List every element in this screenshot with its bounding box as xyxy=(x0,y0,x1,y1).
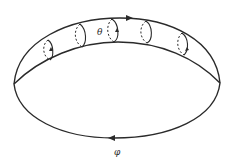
phi-label: φ xyxy=(114,147,121,157)
top-arrow-icon xyxy=(126,15,133,21)
theta-label: θ xyxy=(97,27,103,37)
torus-inner-tube-edge xyxy=(14,42,220,84)
torus-bottom-edge xyxy=(14,83,220,138)
poloidal-circle-5 xyxy=(178,33,189,55)
poloidal-circle-3 xyxy=(108,19,119,42)
phi-arrow-icon xyxy=(108,135,115,141)
poloidal-circle-4 xyxy=(141,21,152,43)
poloidal-circle-2 xyxy=(75,24,85,47)
torus-diagram: θ φ xyxy=(0,0,234,164)
poloidal-circle-1 xyxy=(44,40,53,60)
